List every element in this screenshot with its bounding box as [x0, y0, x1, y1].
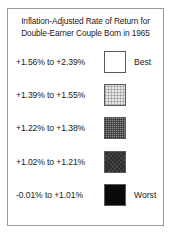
legend-rows: +1.56% to +2.39% Best +1.39% to +1.55% +… [8, 45, 163, 212]
legend-range-label: +1.56% to +2.39% [16, 57, 85, 67]
legend-title: Inflation-Adjusted Rate of Return for Do… [13, 16, 158, 39]
legend-title-line-2: Double-Earner Couple Born in 1965 [13, 28, 158, 40]
legend-range-label: -0.01% to +1.01% [16, 190, 83, 200]
legend-row: +1.02% to +1.21% [8, 145, 163, 178]
legend-range-label: +1.22% to +1.38% [16, 123, 85, 133]
legend-row: -0.01% to +1.01% Worst [8, 179, 163, 212]
light-gray-swatch [104, 84, 126, 106]
legend-title-line-1: Inflation-Adjusted Rate of Return for [13, 16, 158, 28]
legend-range-label: +1.02% to +1.21% [16, 157, 85, 167]
dark-gray-swatch [104, 151, 126, 173]
black-swatch [104, 184, 126, 206]
legend-row: +1.39% to +1.55% [8, 78, 163, 111]
legend-range-label: +1.39% to +1.55% [16, 90, 85, 100]
legend-rank-label-best: Best [134, 57, 151, 67]
white-swatch [104, 51, 126, 73]
legend-row: +1.56% to +2.39% Best [8, 45, 163, 78]
medium-gray-swatch [104, 117, 126, 139]
legend-panel: Inflation-Adjusted Rate of Return for Do… [7, 8, 164, 226]
legend-row: +1.22% to +1.38% [8, 112, 163, 145]
legend-rank-label-worst: Worst [134, 190, 156, 200]
